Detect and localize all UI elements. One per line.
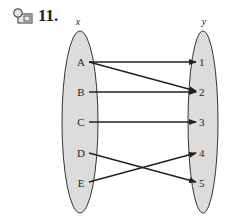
mapping-diagram: x y A B C D E 1 2 3 4 5	[0, 0, 231, 221]
domain-label: x	[75, 16, 81, 27]
domain-element-c: C	[77, 116, 84, 128]
domain-element-e: E	[78, 177, 85, 189]
domain-element-a: A	[77, 56, 85, 68]
domain-element-d: D	[77, 147, 85, 159]
range-label: y	[201, 16, 207, 27]
domain-element-b: B	[77, 86, 84, 98]
range-element-4: 4	[199, 147, 205, 159]
mapping-arrows	[89, 62, 196, 182]
range-element-5: 5	[199, 177, 205, 189]
range-element-2: 2	[199, 86, 205, 98]
range-element-3: 3	[199, 116, 205, 128]
range-element-1: 1	[199, 56, 205, 68]
arrow-a-to-2	[89, 62, 196, 91]
